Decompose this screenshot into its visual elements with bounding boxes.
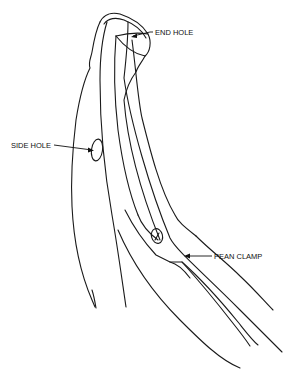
- pean-clamp-label: PEAN CLAMP: [214, 252, 262, 261]
- end-hole-label: END HOLE: [155, 28, 193, 37]
- chest-tube-diagram: END HOLE SIDE HOLE PEAN CLAMP: [0, 0, 285, 389]
- side-hole-label: SIDE HOLE: [11, 141, 51, 150]
- label-pean-clamp: PEAN CLAMP: [184, 252, 262, 261]
- label-side-hole: SIDE HOLE: [11, 141, 94, 153]
- tube-outline: [72, 13, 160, 307]
- pean-clamp: [92, 22, 282, 368]
